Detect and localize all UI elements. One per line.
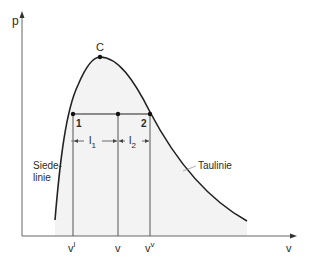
siedelinie-label-line1: Siede- — [33, 161, 62, 171]
point-1 — [71, 112, 75, 116]
diagram-canvas — [0, 0, 309, 263]
l2-subscript: 2 — [131, 141, 135, 150]
l1-label: l1 — [89, 135, 96, 146]
point-2-label: 2 — [141, 119, 147, 129]
tick-v-vapor-sup: v — [151, 240, 155, 249]
tick-v-vapor-main: v — [145, 242, 151, 254]
tick-v-liquid-main: v — [68, 242, 74, 254]
y-axis-arrow-icon — [20, 11, 25, 18]
tick-v: v — [115, 243, 121, 254]
point-1-label: 1 — [76, 119, 82, 129]
point-2 — [148, 112, 152, 116]
siedelinie-label-line2: linie — [33, 173, 51, 183]
pv-diagram: p v C 1 2 l1 l2 Siede- linie Taulinie vl… — [0, 0, 309, 263]
x-axis-arrow-icon — [290, 234, 297, 239]
critical-point — [98, 55, 102, 59]
y-axis-label: p — [12, 15, 19, 27]
tick-v-vapor: vv — [145, 243, 155, 254]
x-axis-label: v — [286, 243, 292, 254]
l1-subscript: 1 — [91, 141, 95, 150]
point-mid — [116, 112, 120, 116]
tick-v-liquid: vl — [68, 243, 75, 254]
taulinie-label: Taulinie — [198, 161, 232, 171]
critical-point-label: C — [96, 42, 104, 53]
l2-label: l2 — [129, 135, 136, 146]
two-phase-region — [55, 57, 247, 236]
